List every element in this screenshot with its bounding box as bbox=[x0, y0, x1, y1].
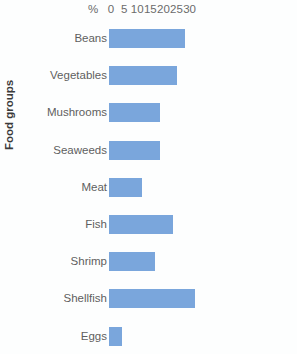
bar bbox=[109, 215, 173, 234]
bar-row: Seaweeds bbox=[0, 141, 297, 160]
bar-row: Shrimp bbox=[0, 252, 297, 271]
category-label: Fish bbox=[1, 215, 107, 234]
bar bbox=[109, 29, 185, 48]
bar bbox=[109, 66, 177, 85]
category-label: Meat bbox=[1, 178, 107, 197]
category-label: Shellfish bbox=[1, 289, 107, 308]
bar bbox=[109, 289, 195, 308]
category-label: Beans bbox=[1, 29, 107, 48]
bar-row: Shellfish bbox=[0, 289, 297, 308]
bar-row: Beans bbox=[0, 29, 297, 48]
category-label: Seaweeds bbox=[1, 141, 107, 160]
bar bbox=[109, 327, 122, 346]
bar-row: Meat bbox=[0, 178, 297, 197]
plot-area: BeansVegetablesMushroomsSeaweedsMeatFish… bbox=[0, 0, 297, 354]
bar-row: Eggs bbox=[0, 327, 297, 346]
category-label: Eggs bbox=[1, 327, 107, 346]
bar bbox=[109, 252, 155, 271]
bar-row: Fish bbox=[0, 215, 297, 234]
category-label: Shrimp bbox=[1, 252, 107, 271]
bar-chart: % 051015202530 Food groups BeansVegetabl… bbox=[0, 0, 297, 354]
category-label: Vegetables bbox=[1, 66, 107, 85]
bar bbox=[109, 178, 142, 197]
bar bbox=[109, 103, 160, 122]
bar bbox=[109, 141, 160, 160]
bar-row: Vegetables bbox=[0, 66, 297, 85]
bar-row: Mushrooms bbox=[0, 103, 297, 122]
category-label: Mushrooms bbox=[1, 103, 107, 122]
